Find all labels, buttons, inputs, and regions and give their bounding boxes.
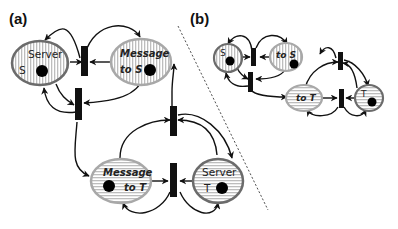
token — [290, 60, 299, 69]
transition — [248, 72, 253, 92]
place-message-to-t: Message to T — [91, 159, 153, 203]
panel-b-label: (b) — [190, 10, 209, 27]
token — [103, 180, 115, 192]
place-to-t: to T — [286, 85, 322, 111]
token — [216, 182, 228, 194]
svg-text:Message: Message — [120, 48, 170, 59]
token — [36, 65, 48, 77]
transition — [81, 46, 88, 76]
svg-text:T: T — [203, 182, 211, 194]
token — [368, 98, 377, 107]
svg-text:to T: to T — [296, 93, 317, 103]
petri-net-diagram: (a) Server S Message to S Message — [0, 0, 398, 229]
svg-text:to T: to T — [124, 182, 147, 193]
svg-text:Server: Server — [28, 48, 63, 60]
svg-text:to S: to S — [120, 64, 142, 75]
place-t: T — [355, 85, 383, 111]
token — [144, 64, 156, 76]
place-to-s: to S — [270, 43, 302, 71]
place-server-s: Server S — [12, 41, 68, 85]
svg-text:Server: Server — [202, 166, 237, 178]
panel-a-label: (a) — [9, 10, 27, 27]
svg-text:to S: to S — [276, 50, 296, 60]
transition — [170, 163, 177, 197]
transition — [339, 89, 344, 108]
place-message-to-s: Message to S — [111, 39, 171, 85]
transition — [75, 88, 82, 120]
token — [226, 57, 235, 66]
transition — [338, 52, 343, 70]
svg-text:S: S — [220, 48, 226, 58]
svg-text:S: S — [19, 64, 26, 76]
transition — [170, 106, 177, 136]
svg-text:T: T — [360, 89, 367, 99]
transition — [251, 48, 256, 66]
place-s: S — [214, 44, 242, 72]
place-server-t: Server T — [193, 159, 243, 203]
svg-text:Message: Message — [103, 167, 153, 178]
